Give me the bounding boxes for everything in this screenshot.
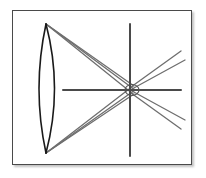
lens-left-surface [39, 24, 46, 153]
ray-upper-outgoing-1 [132, 60, 185, 89]
ray-lower-outgoing-0 [131, 93, 181, 129]
axis-group [63, 24, 181, 156]
lens-ray-diagram [13, 11, 193, 166]
figure-container [0, 0, 206, 178]
ray-upper-outgoing-0 [131, 51, 181, 87]
ray-lower-outgoing-1 [132, 91, 185, 120]
lens-group [39, 24, 55, 153]
ray-lower-incoming-2 [46, 86, 133, 153]
ray-lower-incoming-1 [46, 90, 135, 153]
diagram-frame [12, 10, 192, 165]
ray-upper-incoming-2 [46, 24, 133, 94]
ray-upper-incoming-1 [46, 24, 135, 90]
ray-group [46, 24, 185, 153]
lens-right-surface [46, 24, 55, 153]
